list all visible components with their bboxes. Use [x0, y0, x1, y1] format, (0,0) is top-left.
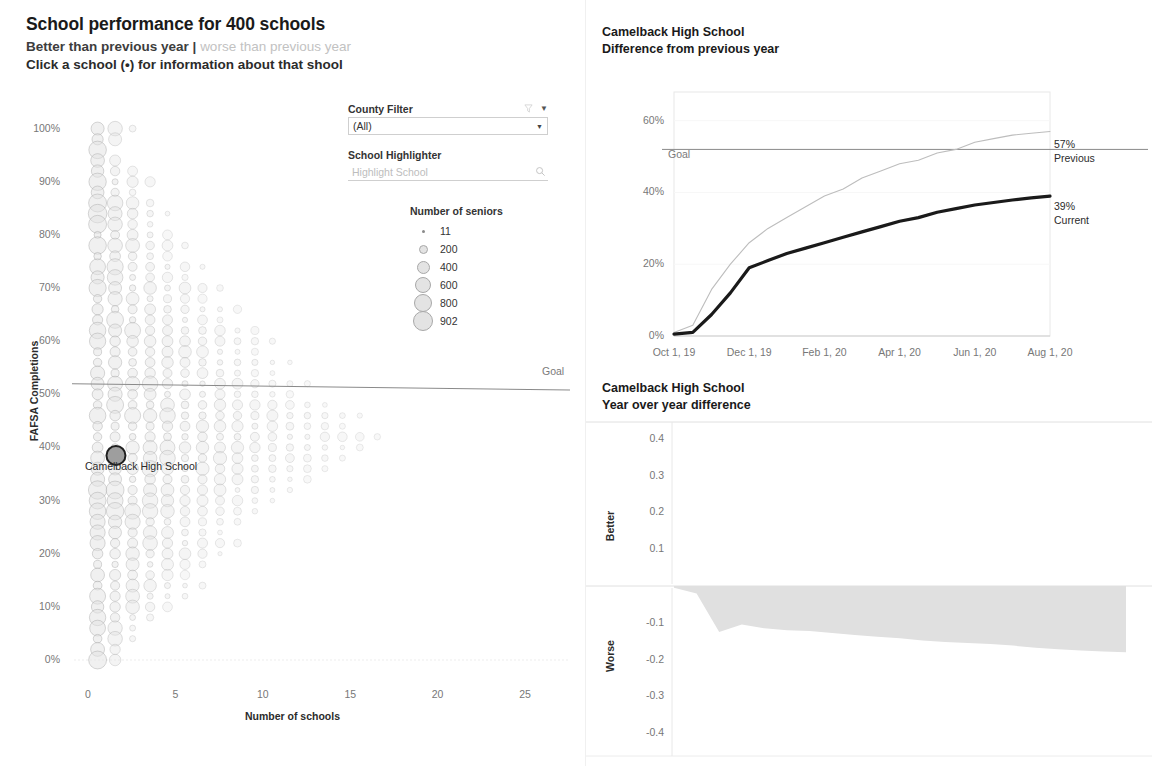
size-legend: Number of seniors 11200400600800902	[410, 205, 503, 330]
y-tick-label: 70%	[14, 281, 60, 293]
x-tick-label: 15	[330, 688, 370, 700]
bubble-glyph	[422, 230, 425, 233]
size-legend-item: 902	[410, 312, 503, 330]
y-tick-label: 30%	[14, 494, 60, 506]
y-tick-label: 90%	[14, 175, 60, 187]
county-filter-select[interactable]: (All) ▼	[348, 117, 548, 135]
size-legend-item: 800	[410, 294, 503, 312]
y-tick-label: 20%	[14, 547, 60, 559]
size-legend-rows: 11200400600800902	[410, 222, 503, 330]
yoy-y-tick-label: -0.1	[614, 616, 664, 628]
y-tick-label: 0%	[14, 653, 60, 665]
x-axis-title: Number of schools	[0, 710, 585, 722]
previous-series-label: 57% Previous	[1054, 137, 1095, 165]
year-over-year-difference-chart[interactable]: 0.40.30.20.1-0.1-0.2-0.3-0.4 Better Wors…	[586, 380, 1152, 766]
size-legend-bubble	[410, 277, 436, 293]
difference-x-tick-label: Aug 1, 20	[1018, 346, 1082, 358]
size-legend-item: 600	[410, 276, 503, 294]
size-legend-bubble	[410, 230, 436, 233]
previous-series-name: Previous	[1054, 152, 1095, 164]
yoy-y-tick-label: 0.3	[614, 469, 664, 481]
difference-x-tick-label: Jun 1, 20	[943, 346, 1007, 358]
filter-controls: County Filter ▼ (All) ▼ School Highlight…	[348, 103, 548, 181]
size-legend-value: 902	[440, 315, 458, 327]
yoy-y-tick-label: -0.4	[614, 726, 664, 738]
y-tick-label: 80%	[14, 228, 60, 240]
select-chevron-down-icon[interactable]: ▼	[536, 123, 543, 130]
y-tick-label: 40%	[14, 440, 60, 452]
y-tick-label: 10%	[14, 600, 60, 612]
bubble-glyph	[414, 294, 432, 312]
goal-line-label: Goal	[542, 365, 564, 377]
difference-y-tick-label: 60%	[616, 114, 664, 126]
yoy-y-tick-label: 0.4	[614, 432, 664, 444]
size-legend-value: 11	[440, 225, 451, 237]
current-series-value: 39%	[1054, 200, 1075, 212]
county-filter-label-row: County Filter ▼	[348, 103, 548, 115]
difference-y-tick-label: 40%	[616, 185, 664, 197]
x-tick-label: 5	[155, 688, 195, 700]
school-highlighter-input[interactable]: Highlight School	[348, 163, 548, 181]
difference-x-tick-label: Oct 1, 19	[642, 346, 706, 358]
dashboard: School performance for 400 schools Bette…	[0, 0, 1152, 766]
x-tick-label: 20	[418, 688, 458, 700]
current-series-name: Current	[1054, 214, 1089, 226]
bubble-glyph	[419, 245, 428, 254]
school-detail-panel: Camelback High School Difference from pr…	[586, 0, 1152, 766]
yoy-chart-svg[interactable]	[586, 380, 1152, 766]
yoy-y-tick-label: 0.1	[614, 542, 664, 554]
size-legend-title: Number of seniors	[410, 205, 503, 217]
size-legend-item: 200	[410, 240, 503, 258]
yoy-y-tick-label: 0.2	[614, 505, 664, 517]
size-legend-bubble	[410, 261, 436, 274]
x-tick-label: 25	[505, 688, 545, 700]
difference-chart-svg[interactable]	[586, 0, 1152, 380]
difference-x-tick-label: Feb 1, 20	[792, 346, 856, 358]
county-filter-label: County Filter	[348, 103, 413, 115]
difference-x-tick-label: Dec 1, 19	[717, 346, 781, 358]
highlighted-school-label: Camelback High School	[85, 460, 197, 472]
yoy-y-tick-label: -0.2	[614, 653, 664, 665]
difference-y-tick-label: 20%	[616, 257, 664, 269]
size-legend-bubble	[410, 245, 436, 254]
difference-y-tick-label: 0%	[616, 329, 664, 341]
school-highlighter-label: School Highlighter	[348, 149, 441, 161]
x-tick-label: 0	[68, 688, 108, 700]
y-tick-label: 100%	[14, 122, 60, 134]
size-legend-value: 800	[440, 297, 458, 309]
previous-series-value: 57%	[1054, 138, 1075, 150]
controls-spacer	[348, 135, 548, 149]
size-legend-value: 400	[440, 261, 458, 273]
better-pane-label: Better	[604, 496, 616, 556]
school-highlighter-placeholder: Highlight School	[352, 166, 428, 178]
school-performance-panel: School performance for 400 schools Bette…	[0, 0, 585, 766]
size-legend-bubble	[410, 294, 436, 312]
difference-goal-label: Goal	[668, 148, 690, 160]
size-legend-item: 400	[410, 258, 503, 276]
y-tick-label: 50%	[14, 387, 60, 399]
county-filter-value: (All)	[353, 120, 372, 132]
size-legend-value: 200	[440, 243, 458, 255]
worse-pane-label: Worse	[604, 626, 616, 686]
size-legend-value: 600	[440, 279, 458, 291]
bubble-glyph	[413, 311, 433, 331]
size-legend-bubble	[410, 311, 436, 331]
county-filter-icons[interactable]: ▼	[524, 103, 548, 115]
bubble-glyph	[417, 261, 430, 274]
bubble-glyph	[415, 277, 431, 293]
size-legend-item: 11	[410, 222, 503, 240]
school-highlighter-label-row: School Highlighter	[348, 149, 548, 161]
search-icon[interactable]	[535, 163, 546, 181]
funnel-icon[interactable]	[524, 103, 533, 115]
chevron-down-icon[interactable]: ▼	[540, 105, 548, 113]
x-tick-label: 10	[243, 688, 283, 700]
difference-from-previous-year-chart[interactable]: 0%20%40%60% Oct 1, 19Dec 1, 19Feb 1, 20A…	[586, 0, 1152, 380]
difference-x-tick-label: Apr 1, 20	[868, 346, 932, 358]
yoy-y-tick-label: -0.3	[614, 689, 664, 701]
y-tick-label: 60%	[14, 334, 60, 346]
current-series-label: 39% Current	[1054, 199, 1089, 227]
